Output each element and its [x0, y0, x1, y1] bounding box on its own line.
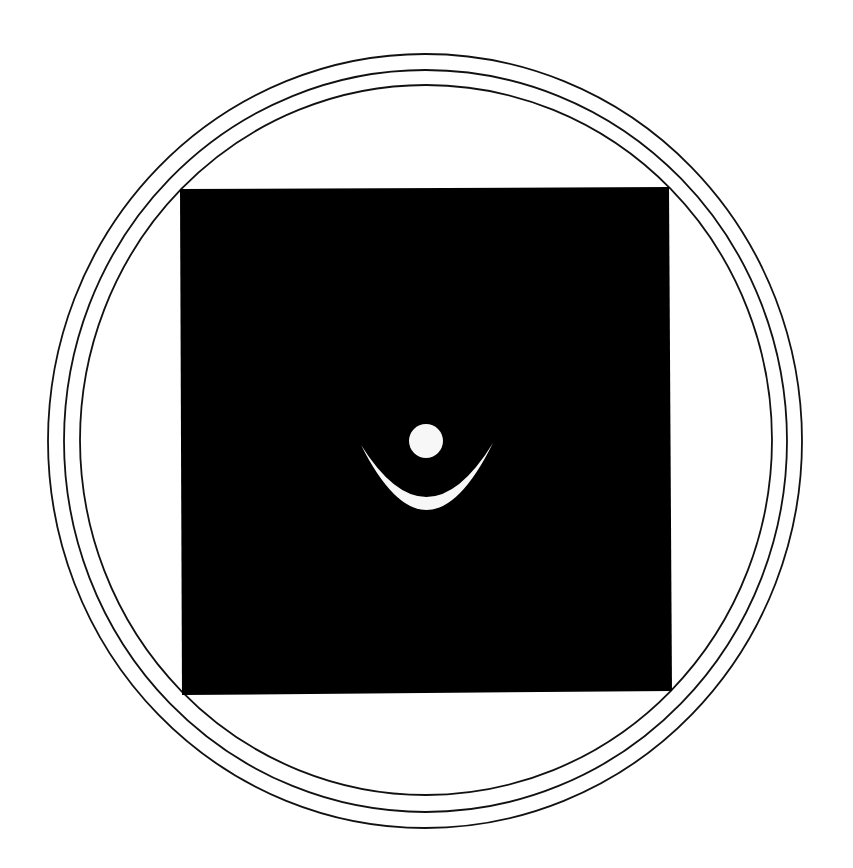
emblem-canvas — [0, 0, 853, 868]
dot-icon — [409, 424, 443, 458]
emblem-diagram — [0, 0, 853, 868]
